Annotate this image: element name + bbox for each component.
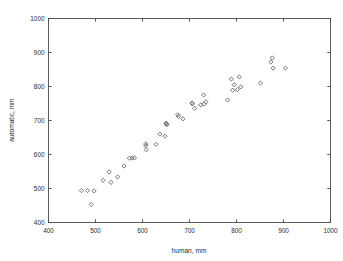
y-tick-label: 700: [34, 117, 45, 124]
x-tick-label: 800: [231, 227, 242, 234]
x-tick-label: 1000: [323, 227, 338, 234]
data-point-marker: [154, 142, 158, 146]
y-tick-label: 500: [34, 185, 45, 192]
tick-marks: [49, 19, 331, 223]
y-tick-label: 900: [34, 49, 45, 56]
y-tick-label: 400: [34, 219, 45, 226]
data-point-marker: [109, 180, 113, 184]
data-markers: [79, 56, 287, 207]
x-tick-label: 500: [90, 227, 101, 234]
data-point-marker: [269, 60, 273, 64]
data-point-marker: [258, 81, 262, 85]
data-point-marker: [235, 87, 239, 91]
y-axis-title: automatic, mm: [8, 98, 15, 142]
scatter-plot-figure: 4005006007008009001000400500600700800900…: [0, 0, 343, 261]
x-tick-label: 700: [184, 227, 195, 234]
axes-frame: [49, 19, 331, 223]
data-point-marker: [202, 93, 206, 97]
data-point-marker: [107, 170, 111, 174]
data-point-marker: [225, 98, 229, 102]
data-point-marker: [239, 85, 243, 89]
data-point-marker: [237, 75, 241, 79]
plot-border: [49, 19, 331, 223]
data-point-marker: [89, 202, 93, 206]
data-point-marker: [85, 188, 89, 192]
y-tick-label: 800: [34, 83, 45, 90]
data-point-marker: [283, 66, 287, 70]
data-point-marker: [92, 189, 96, 193]
data-point-marker: [271, 66, 275, 70]
x-tick-label: 400: [43, 227, 54, 234]
x-tick-label: 900: [278, 227, 289, 234]
x-tick-label: 600: [137, 227, 148, 234]
data-point-marker: [204, 100, 208, 104]
data-point-marker: [193, 106, 197, 110]
data-point-marker: [115, 175, 119, 179]
data-point-marker: [122, 164, 126, 168]
data-point-marker: [232, 83, 236, 87]
plot-canvas: 4005006007008009001000400500600700800900…: [0, 0, 343, 261]
x-axis-title: human, mm: [172, 247, 207, 254]
y-tick-label: 1000: [30, 15, 45, 22]
data-point-marker: [144, 148, 148, 152]
tick-labels: 4005006007008009001000400500600700800900…: [30, 15, 338, 234]
y-tick-label: 600: [34, 151, 45, 158]
data-point-marker: [163, 134, 167, 138]
data-point-marker: [181, 117, 185, 121]
data-point-marker: [270, 56, 274, 60]
data-point-marker: [158, 132, 162, 136]
data-point-marker: [79, 188, 83, 192]
data-point-marker: [231, 88, 235, 92]
data-point-marker: [229, 77, 233, 81]
data-point-marker: [101, 178, 105, 182]
